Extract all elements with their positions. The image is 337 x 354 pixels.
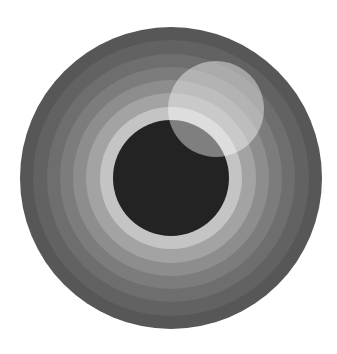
concentric-circles-artwork [0,0,337,354]
light-overlay-circle [168,61,264,157]
